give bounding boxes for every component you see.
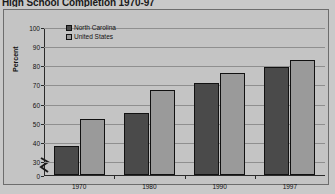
- y-tick-mark: [41, 47, 44, 48]
- x-tick-label-1990: 1990: [212, 183, 226, 190]
- legend-swatch-icon: [66, 34, 72, 40]
- x-tick-mark: [185, 176, 186, 179]
- x-tick-label-1980: 1980: [142, 183, 156, 190]
- y-tick-mark: [41, 124, 44, 125]
- y-tick-mark: [41, 28, 44, 29]
- y-tick-label: 50: [33, 120, 40, 127]
- y-tick-label: 100: [29, 25, 40, 32]
- y-axis-line: [44, 28, 45, 176]
- y-tick-label: 70: [33, 82, 40, 89]
- legend-label: North Carolina: [74, 24, 116, 32]
- x-tick-label-1997: 1997: [283, 183, 297, 190]
- legend: North CarolinaUnited States: [66, 24, 116, 42]
- y-tick-label: 80: [33, 63, 40, 70]
- bar-north-carolina-1990: [194, 83, 219, 175]
- bar-north-carolina-1997: [264, 67, 289, 175]
- y-tick-label: 0: [36, 173, 40, 180]
- gridline: [44, 47, 325, 48]
- x-tick-mark: [114, 176, 115, 179]
- y-tick-mark: [41, 105, 44, 106]
- bar-north-carolina-1970: [54, 146, 79, 175]
- y-tick-mark: [41, 85, 44, 86]
- plot-area: 030405060708090100 1970198019901997: [44, 28, 325, 176]
- chart-title: High School Completion 1970-97: [2, 0, 155, 7]
- bar-united-states-1990: [220, 73, 245, 175]
- bar-north-carolina-1980: [124, 113, 149, 175]
- y-tick-label: 60: [33, 101, 40, 108]
- bar-united-states-1997: [290, 60, 315, 175]
- y-axis-label: Percent: [12, 46, 19, 72]
- plot-wrapper: Percent 030405060708090100 1970198019901…: [4, 10, 328, 184]
- x-tick-mark: [255, 176, 256, 179]
- legend-swatch-icon: [66, 25, 72, 31]
- bar-united-states-1970: [80, 119, 105, 175]
- y-tick-mark: [41, 176, 44, 177]
- legend-item-north-carolina: North Carolina: [66, 24, 116, 32]
- y-tick-label: 40: [33, 139, 40, 146]
- chart-frame: Percent 030405060708090100 1970198019901…: [3, 9, 329, 185]
- y-tick-mark: [41, 143, 44, 144]
- legend-item-united-states: United States: [66, 33, 116, 41]
- y-tick-label: 90: [33, 44, 40, 51]
- y-tick-label: 30: [33, 159, 40, 166]
- y-tick-mark: [41, 162, 44, 163]
- axis-break-icon: [39, 156, 51, 174]
- x-tick-label-1970: 1970: [72, 183, 86, 190]
- y-tick-mark: [41, 66, 44, 67]
- legend-label: United States: [74, 33, 113, 41]
- bar-united-states-1980: [150, 90, 175, 175]
